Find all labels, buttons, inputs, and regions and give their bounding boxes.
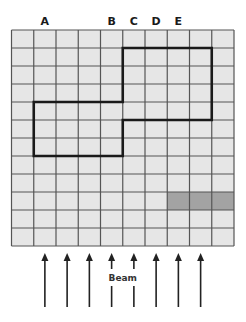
arrow-head-icon xyxy=(64,253,71,261)
shaded-cell xyxy=(212,192,234,210)
arrow-head-icon xyxy=(175,253,182,261)
beam-arrow xyxy=(86,253,93,307)
shaded-cell xyxy=(167,192,189,210)
shaded-cell xyxy=(190,192,212,210)
beam-label: Beam xyxy=(109,273,137,283)
column-label-c: C xyxy=(130,15,138,28)
arrow-head-icon xyxy=(130,253,137,261)
arrow-head-icon xyxy=(86,253,93,261)
shaded-cells xyxy=(167,192,234,210)
beam-grid-diagram: ABCDE Beam xyxy=(0,0,246,322)
column-label-b: B xyxy=(107,15,115,28)
beam-arrow xyxy=(41,253,48,307)
column-label-d: D xyxy=(152,15,161,28)
arrow-head-icon xyxy=(41,253,48,261)
column-labels: ABCDE xyxy=(41,15,183,28)
arrow-head-icon xyxy=(197,253,204,261)
arrow-head-icon xyxy=(153,253,160,261)
beam-arrow xyxy=(197,253,204,307)
column-label-a: A xyxy=(41,15,50,28)
arrow-head-icon xyxy=(108,253,115,261)
column-label-e: E xyxy=(175,15,183,28)
beam-arrow xyxy=(175,253,182,307)
beam-arrow xyxy=(153,253,160,307)
beam-arrow xyxy=(64,253,71,307)
